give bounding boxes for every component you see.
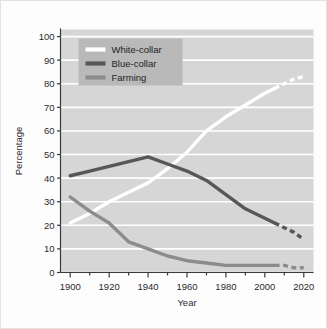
y-tick-label-80: 80 — [44, 78, 55, 89]
y-tick-label-100: 100 — [39, 31, 55, 42]
occupation-trends-line-chart: 0102030405060708090100190019201940196019… — [0, 0, 327, 329]
y-tick-label-20: 20 — [44, 220, 55, 231]
y-tick-label-90: 90 — [44, 55, 55, 66]
y-tick-label-70: 70 — [44, 102, 55, 113]
x-tick-label-1920: 1920 — [99, 281, 120, 292]
x-tick-label-2000: 2000 — [254, 281, 275, 292]
y-tick-label-0: 0 — [49, 267, 54, 278]
y-tick-label-10: 10 — [44, 243, 55, 254]
x-tick-label-1960: 1960 — [176, 281, 197, 292]
y-tick-label-60: 60 — [44, 125, 55, 136]
y-axis-title: Percentage — [13, 127, 24, 176]
x-axis-title: Year — [177, 297, 196, 308]
legend-label-white-collar: White-collar — [112, 44, 162, 55]
y-tick-label-50: 50 — [44, 149, 55, 160]
y-tick-label-30: 30 — [44, 196, 55, 207]
chart-figure: 0102030405060708090100190019201940196019… — [0, 0, 327, 329]
y-tick-label-40: 40 — [44, 173, 55, 184]
legend-label-farming: Farming — [112, 72, 147, 83]
x-tick-label-1900: 1900 — [60, 281, 81, 292]
x-tick-label-1940: 1940 — [138, 281, 159, 292]
x-tick-label-1980: 1980 — [215, 281, 236, 292]
legend-label-blue-collar: Blue-collar — [112, 58, 157, 69]
x-tick-label-2020: 2020 — [293, 281, 314, 292]
